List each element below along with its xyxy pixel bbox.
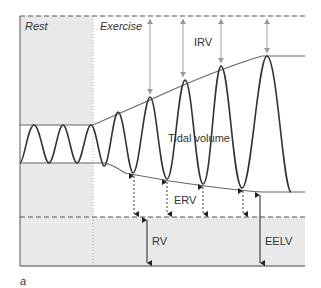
panel-label: a <box>20 276 26 287</box>
eelv-label: EELV <box>265 236 292 247</box>
rv-label: RV <box>152 236 167 247</box>
rest-shaded-region <box>20 16 93 125</box>
tidal-volume-label: Tidal volume <box>168 133 230 144</box>
rest-shaded-region-lower <box>20 163 93 217</box>
erv-label: ERV <box>174 195 196 206</box>
rest-label: Rest <box>25 21 48 32</box>
irv-label: IRV <box>194 37 212 48</box>
exercise-label: Exercise <box>100 21 142 32</box>
